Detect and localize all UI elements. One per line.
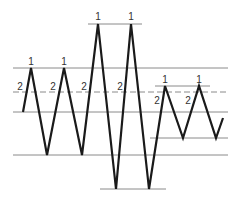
zigzag-diagram: 1 1 1 1 1 1 2 2 2 2 2 2 [0,0,236,198]
peak-label: 1 [61,56,67,67]
midpoint-label: 2 [17,81,23,92]
midpoint-label: 2 [117,81,123,92]
peak-label: 1 [196,74,202,85]
midpoint-label: 2 [81,81,87,92]
midpoint-label: 2 [185,95,191,106]
peak-label: 1 [95,11,101,22]
peak-label: 1 [128,11,134,22]
zigzag-wave [23,24,223,189]
peak-label: 1 [162,74,168,85]
midpoint-label: 2 [50,81,56,92]
peak-label: 1 [28,56,34,67]
midpoint-label: 2 [154,95,160,106]
